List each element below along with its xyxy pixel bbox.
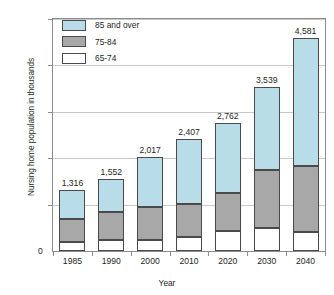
x-axis-tick-mark [92, 252, 93, 256]
bar-segment[interactable] [137, 207, 163, 240]
x-axis-tick-mark [208, 252, 209, 256]
legend-swatch-icon [62, 53, 86, 64]
legend: 85 and over 75-84 65-74 [62, 19, 182, 69]
bar-segment[interactable] [215, 123, 241, 194]
legend-item-75-84: 75-84 [62, 36, 182, 48]
bar-segment[interactable] [215, 231, 241, 251]
bar-segment[interactable] [176, 204, 202, 237]
bar-value-label: 2,017 [127, 145, 173, 155]
y-axis-zero-label: 0 [38, 246, 43, 256]
x-axis-tick-mark [53, 252, 54, 256]
legend-label: 65-74 [95, 53, 116, 63]
bar-segment[interactable] [137, 157, 163, 206]
x-axis-tick-mark [286, 252, 287, 256]
x-axis-tick-mark [131, 252, 132, 256]
legend-item-85-and-over: 85 and over [62, 19, 182, 31]
bar-segment[interactable] [59, 190, 85, 219]
bar-segment[interactable] [215, 193, 241, 231]
bar-value-label: 1,316 [49, 178, 95, 188]
legend-item-65-74: 65-74 [62, 52, 182, 64]
bar-segment[interactable] [293, 232, 319, 251]
x-axis-tick-mark [247, 252, 248, 256]
legend-swatch-icon [62, 36, 86, 47]
bar-segment[interactable] [176, 237, 202, 251]
bar-segment[interactable] [176, 139, 202, 204]
legend-label: 75-84 [95, 37, 116, 47]
x-axis-title: Year [0, 278, 334, 288]
nursing-home-population-chart: Nursing home population in thousands Yea… [0, 0, 334, 295]
bar-segment[interactable] [254, 170, 280, 228]
x-axis-tick-mark [325, 252, 326, 256]
bar-segment[interactable] [137, 240, 163, 251]
x-axis-tick-label: 2040 [283, 256, 329, 266]
bar-segment[interactable] [59, 242, 85, 251]
bar-value-label: 2,407 [166, 127, 212, 137]
legend-swatch-icon [62, 20, 86, 31]
bar-value-label: 3,539 [244, 75, 290, 85]
bar-segment[interactable] [59, 219, 85, 243]
bar-segment[interactable] [254, 228, 280, 251]
bar-segment[interactable] [293, 38, 319, 165]
y-axis-title: Nursing home population in thousands [26, 27, 36, 227]
bar-value-label: 2,762 [205, 111, 251, 121]
bar-segment[interactable] [293, 166, 319, 232]
bar-segment[interactable] [98, 240, 124, 251]
legend-label: 85 and over [95, 20, 139, 30]
x-axis-tick-mark [170, 252, 171, 256]
bar-segment[interactable] [98, 212, 124, 241]
bar-segment[interactable] [254, 87, 280, 170]
bar-value-label: 4,581 [283, 26, 329, 36]
bar-value-label: 1,552 [88, 167, 134, 177]
bar-segment[interactable] [98, 179, 124, 212]
